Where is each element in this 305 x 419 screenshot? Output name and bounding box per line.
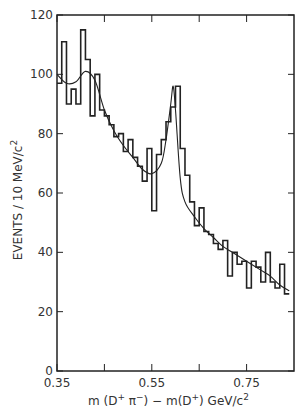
x-tick-label: 0.75 (233, 376, 260, 390)
y-tick-label: 120 (30, 8, 53, 22)
y-tick-label: 40 (38, 245, 53, 259)
histogram-chart: 020406080100120 0.350.550.75 EVENTS / 10… (0, 0, 305, 419)
y-tick-label: 80 (38, 127, 53, 141)
y-tick-label: 60 (38, 186, 53, 200)
data-histogram (57, 30, 289, 294)
x-tick-label: 0.35 (44, 376, 71, 390)
x-tick-label: 0.55 (138, 376, 165, 390)
y-tick-label: 100 (30, 67, 53, 81)
plot-frame (57, 15, 294, 371)
fit-curve (57, 71, 289, 291)
y-axis-ticks: 020406080100120 (30, 8, 294, 378)
y-axis-title: EVENTS / 10 MeV/c2 (9, 140, 25, 260)
y-tick-label: 20 (38, 305, 53, 319)
x-axis-title: m (D+ π−) − m(D+) GeV/c2 (88, 392, 249, 408)
